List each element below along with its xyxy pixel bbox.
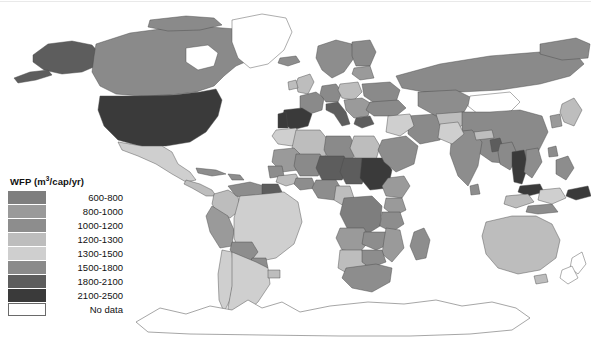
legend-swatch bbox=[8, 275, 46, 288]
legend-item[interactable]: 2100-2500 bbox=[8, 288, 126, 302]
legend-swatch bbox=[8, 205, 46, 218]
region-korea bbox=[550, 114, 562, 128]
legend-swatch bbox=[8, 289, 46, 302]
legend-item[interactable]: 1500-1800 bbox=[8, 260, 126, 274]
region-tasmania bbox=[534, 274, 548, 284]
legend-swatch bbox=[8, 219, 46, 232]
region-south-africa bbox=[342, 264, 392, 292]
legend-title: WFP (m3/cap/yr) bbox=[10, 176, 126, 187]
region-australia bbox=[482, 216, 560, 274]
legend-item[interactable]: 1800-2100 bbox=[8, 274, 126, 288]
legend-swatch bbox=[8, 303, 46, 316]
region-mexico bbox=[118, 142, 196, 182]
map-figure: WFP (m3/cap/yr) 600-800 800-1000 1000-12… bbox=[0, 0, 591, 349]
region-taiwan bbox=[548, 146, 558, 157]
legend-label: 1500-1800 bbox=[46, 262, 126, 273]
region-sri-lanka bbox=[470, 184, 480, 195]
legend-label: 800-1000 bbox=[46, 206, 126, 217]
region-central-america bbox=[184, 180, 216, 196]
legend-swatch bbox=[8, 261, 46, 274]
region-uruguay bbox=[268, 270, 280, 278]
region-hispaniola bbox=[228, 174, 244, 180]
region-vietnam bbox=[524, 148, 542, 178]
region-ireland bbox=[288, 80, 298, 90]
legend-label: 2100-2500 bbox=[46, 290, 126, 301]
region-cuba bbox=[196, 168, 226, 176]
region-papua-new-guinea bbox=[566, 186, 591, 200]
legend-label: No data bbox=[46, 304, 126, 315]
region-poland bbox=[338, 82, 362, 100]
region-greece bbox=[354, 116, 374, 128]
region-indonesia-java bbox=[526, 204, 558, 214]
legend-swatch bbox=[8, 247, 46, 260]
region-united-kingdom bbox=[296, 74, 314, 94]
region-japan bbox=[560, 98, 582, 126]
region-baltics bbox=[352, 66, 374, 80]
region-turkey bbox=[366, 100, 406, 116]
legend-label: 1800-2100 bbox=[46, 276, 126, 287]
legend-label: 600-800 bbox=[46, 192, 126, 203]
legend-title-prefix: WFP (m bbox=[10, 176, 46, 187]
region-finland bbox=[352, 40, 376, 66]
legend-item[interactable]: 1300-1500 bbox=[8, 246, 126, 260]
region-antarctica bbox=[136, 300, 530, 336]
region-portugal bbox=[278, 112, 288, 128]
legend-label: 1000-1200 bbox=[46, 220, 126, 231]
legend: WFP (m3/cap/yr) 600-800 800-1000 1000-12… bbox=[8, 176, 126, 316]
region-madagascar bbox=[410, 228, 430, 260]
region-nepal-bhutan bbox=[474, 130, 494, 140]
legend-swatch bbox=[8, 191, 46, 204]
region-scandinavia bbox=[316, 40, 354, 78]
legend-item[interactable]: No data bbox=[8, 302, 126, 316]
region-mozambique bbox=[382, 228, 404, 262]
legend-item[interactable]: 1000-1200 bbox=[8, 218, 126, 232]
legend-item[interactable]: 800-1000 bbox=[8, 204, 126, 218]
region-alaska bbox=[33, 41, 100, 74]
region-borneo bbox=[538, 188, 566, 204]
legend-item[interactable]: 600-800 bbox=[8, 190, 126, 204]
legend-title-suffix: /cap/yr) bbox=[50, 176, 85, 187]
legend-swatch bbox=[8, 233, 46, 246]
legend-label: 1300-1500 bbox=[46, 248, 126, 259]
region-united-states bbox=[98, 89, 222, 146]
legend-label: 1200-1300 bbox=[46, 234, 126, 245]
region-aleutians bbox=[14, 70, 52, 83]
legend-item[interactable]: 1200-1300 bbox=[8, 232, 126, 246]
region-egypt bbox=[350, 136, 380, 160]
region-philippines bbox=[556, 156, 574, 180]
region-iceland bbox=[278, 56, 300, 66]
